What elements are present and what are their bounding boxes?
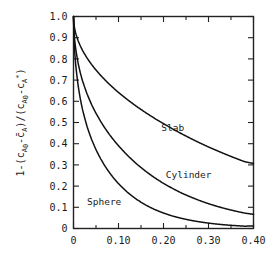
curve-label-slab: Slab	[161, 122, 184, 133]
y-tick-label: 0.9	[49, 32, 67, 43]
x-axis-tick-labels: 00.100.200.300.40	[70, 235, 265, 246]
y-tick-label: 1.0	[49, 11, 67, 22]
y-tick-label: 0.7	[49, 75, 67, 86]
curve-slab	[74, 17, 254, 164]
y-tick-label: 0.1	[49, 202, 67, 213]
curve-cylinder	[74, 17, 254, 215]
x-tick-label: 0.40	[241, 235, 265, 246]
y-axis-tick-labels: 00.10.20.30.40.50.60.70.80.91.0	[49, 11, 67, 234]
x-tick-label: 0.10	[106, 235, 130, 246]
y-tick-label: 0.3	[49, 160, 67, 171]
curve-label-cylinder: Cylinder	[166, 169, 212, 180]
chart-figure: 1-(cA0-c̄A)/(cA0-cA*) 00.10.20.30.40.50.…	[0, 0, 278, 269]
y-axis-title: 1-(cA0-c̄A)/(cA0-cA*)	[15, 69, 30, 177]
y-tick-label: 0.4	[49, 138, 67, 149]
x-tick-label: 0.30	[196, 235, 220, 246]
diffusion-uptake-chart: 1-(cA0-c̄A)/(cA0-cA*) 00.10.20.30.40.50.…	[0, 0, 278, 269]
y-tick-label: 0.5	[49, 117, 67, 128]
x-tick-label: 0.20	[151, 235, 175, 246]
y-tick-label: 0	[61, 223, 67, 234]
y-tick-label: 0.2	[49, 181, 67, 192]
y-tick-label: 0.8	[49, 54, 67, 65]
curve-label-sphere: Sphere	[87, 196, 122, 207]
y-tick-label: 0.6	[49, 96, 67, 107]
curve-annotations: SlabCylinderSphere	[87, 122, 212, 207]
y-axis-title-text: 1-(cA0-c̄A)/(cA0-cA*)	[15, 69, 30, 177]
x-tick-label: 0	[70, 235, 76, 246]
